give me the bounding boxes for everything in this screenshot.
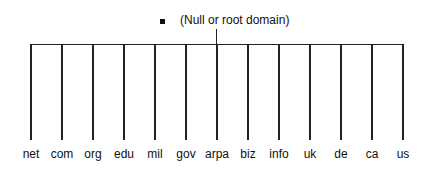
tld-branch-line-com [61,44,62,140]
tld-branch-line-biz [247,44,248,140]
tld-label-info: info [269,147,288,161]
tld-label-edu: edu [114,147,134,161]
tld-label-de: de [334,147,347,161]
tld-branch-line-mil [154,44,155,140]
tld-branch-line-info [278,44,279,140]
tld-label-mil: mil [147,147,162,161]
tld-label-biz: biz [240,147,255,161]
tld-branch-line-org [92,44,93,140]
tld-label-uk: uk [304,147,317,161]
tld-label-net: net [23,147,40,161]
tld-branch-line-uk [309,44,310,140]
tld-branch-line-net [30,44,31,140]
tld-label-com: com [51,147,74,161]
tld-label-ca: ca [366,147,379,161]
tld-branch-line-edu [123,44,124,140]
tld-branch-line-us [402,44,403,140]
root-node-label: (Null or root domain) [180,13,289,27]
tld-label-org: org [84,147,101,161]
tld-label-gov: gov [176,147,195,161]
tld-branch-line-ca [371,44,372,140]
tld-branch-line-arpa [216,44,217,140]
tld-branch-line-de [340,44,341,140]
tld-branch-line-gov [185,44,186,140]
tld-label-arpa: arpa [205,147,229,161]
tld-label-us: us [397,147,410,161]
root-node-marker [160,19,165,24]
